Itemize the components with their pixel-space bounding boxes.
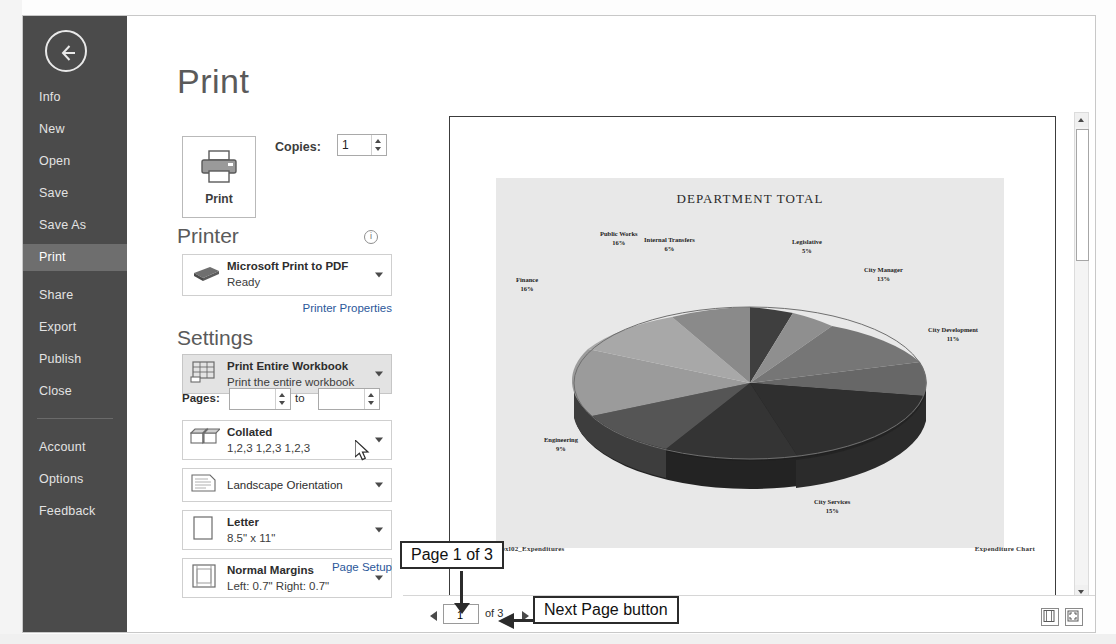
chevron-down-icon: [375, 438, 383, 443]
collate-icon: [190, 427, 220, 453]
callout-page-1-of-3: Page 1 of 3: [400, 541, 504, 569]
callout-next-page-button: Next Page button: [533, 596, 679, 624]
previous-page-icon[interactable]: [429, 608, 439, 620]
sidebar-item-account[interactable]: Account: [23, 434, 127, 461]
scan-edge-bottom: [0, 634, 1116, 644]
settings-heading: Settings: [177, 326, 253, 350]
chevron-down-icon: [375, 528, 383, 533]
sidebar-divider: [37, 418, 113, 419]
sidebar-item-open[interactable]: Open: [23, 148, 127, 175]
callout-next-arrow-stem: [513, 619, 535, 622]
paper-size-select[interactable]: Letter 8.5" x 11": [182, 510, 392, 550]
pie-label-city-services: City Services15%: [814, 498, 850, 516]
zoom-to-page-icon[interactable]: [1065, 608, 1083, 626]
sidebar-item-new[interactable]: New: [23, 116, 127, 143]
sidebar-item-share[interactable]: Share: [23, 282, 127, 309]
pages-from-stepper[interactable]: [275, 389, 289, 409]
chevron-down-icon: [375, 576, 383, 581]
pie-label-city-development: City Development11%: [928, 326, 978, 344]
pie-label-engineering: Engineering9%: [544, 436, 578, 454]
copies-stepper[interactable]: [371, 135, 385, 155]
copies-label: Copies:: [275, 140, 321, 154]
print-settings-pane: Print Print Copies:: [127, 16, 403, 632]
paper-icon: [190, 515, 216, 545]
back-arrow-icon[interactable]: [45, 30, 87, 72]
printer-icon: [198, 149, 240, 191]
page-preview[interactable]: DEPARTMENT TOTAL: [449, 116, 1056, 597]
margins-icon: [190, 563, 218, 593]
collation-sub: 1,2,3 1,2,3 1,2,3: [227, 442, 310, 454]
callout-page-arrow-stem: [460, 571, 463, 605]
chart-area[interactable]: DEPARTMENT TOTAL: [496, 178, 1004, 548]
sidebar-item-print[interactable]: Print: [23, 244, 127, 271]
sidebar-item-publish[interactable]: Publish: [23, 346, 127, 373]
pie-label-public-works: Public Works16%: [600, 230, 638, 248]
page-footer-right: Expenditure Chart: [975, 545, 1035, 553]
printer-heading: Printer: [177, 224, 239, 248]
print-range-title: Print Entire Workbook: [227, 360, 348, 372]
orientation-select[interactable]: Landscape Orientation: [182, 468, 392, 502]
chevron-down-icon: [375, 372, 383, 377]
sidebar-item-save[interactable]: Save: [23, 180, 127, 207]
printer-properties-link[interactable]: Printer Properties: [303, 302, 392, 314]
pie-label-legislative: Legislative5%: [792, 238, 822, 256]
callout-next-arrow-head: [498, 613, 514, 629]
sidebar-item-info[interactable]: Info: [23, 84, 127, 111]
show-margins-icon[interactable]: [1041, 608, 1059, 626]
sidebar-item-options[interactable]: Options: [23, 466, 127, 493]
backstage-sidebar: Info New Open Save Save As Print Share E…: [23, 16, 127, 632]
pages-from-input[interactable]: [229, 388, 291, 410]
pie-label-finance: Finance16%: [516, 276, 538, 294]
margins-title: Normal Margins: [227, 564, 314, 576]
scan-edge-left: [0, 0, 22, 644]
screenshot-root: Last_First_exl02_Expenditures - Excel ? …: [0, 0, 1116, 644]
pie-chart-3d: [496, 178, 1004, 548]
preview-scrollbar[interactable]: [1074, 112, 1089, 600]
pages-to-input[interactable]: [318, 388, 380, 410]
page-setup-link[interactable]: Page Setup: [332, 561, 392, 573]
scrollbar-thumb[interactable]: [1076, 129, 1089, 261]
collation-select[interactable]: Collated 1,2,3 1,2,3 1,2,3: [182, 420, 392, 460]
collation-title: Collated: [227, 426, 272, 438]
excel-window: Last_First_exl02_Expenditures - Excel ? …: [22, 15, 1096, 633]
pages-range-row: Pages: to: [182, 388, 397, 410]
print-button-label: Print: [183, 192, 255, 206]
orientation-title: Landscape Orientation: [227, 479, 343, 491]
pages-from-field[interactable]: [230, 389, 277, 409]
chevron-down-icon: [375, 483, 383, 488]
sidebar-item-close[interactable]: Close: [23, 378, 127, 405]
pie-label-city-manager: City Manager13%: [864, 266, 903, 284]
pages-to-stepper[interactable]: [364, 389, 378, 409]
margins-sub: Left: 0.7" Right: 0.7": [227, 580, 329, 592]
print-preview-area: DEPARTMENT TOTAL: [403, 16, 1095, 632]
pages-to-field[interactable]: [319, 389, 366, 409]
print-range-sub: Print the entire workbook: [227, 376, 354, 388]
printer-name: Microsoft Print to PDF: [227, 260, 348, 272]
scroll-up-icon[interactable]: [1075, 113, 1088, 127]
chevron-down-icon: [375, 273, 383, 278]
callout-page-arrow-head: [454, 603, 470, 614]
landscape-icon: [190, 472, 218, 498]
pages-to-label: to: [295, 392, 305, 404]
pie-label-internal-transfers: Internal Transfers6%: [644, 236, 695, 254]
info-icon[interactable]: i: [364, 230, 378, 244]
page-title: Print: [177, 62, 249, 101]
preview-view-buttons: [1041, 608, 1085, 626]
pages-label: Pages:: [182, 392, 220, 404]
sidebar-item-save-as[interactable]: Save As: [23, 212, 127, 239]
sidebar-item-feedback[interactable]: Feedback: [23, 498, 127, 525]
printer-device-icon: [190, 262, 220, 288]
printer-select[interactable]: Microsoft Print to PDF Ready: [182, 254, 392, 296]
sidebar-item-export[interactable]: Export: [23, 314, 127, 341]
paper-size-sub: 8.5" x 11": [227, 532, 275, 544]
copies-input[interactable]: [337, 134, 387, 156]
paper-size-title: Letter: [227, 516, 259, 528]
print-button[interactable]: Print: [182, 136, 256, 218]
workbook-icon: [190, 360, 218, 388]
printer-status: Ready: [227, 276, 260, 288]
